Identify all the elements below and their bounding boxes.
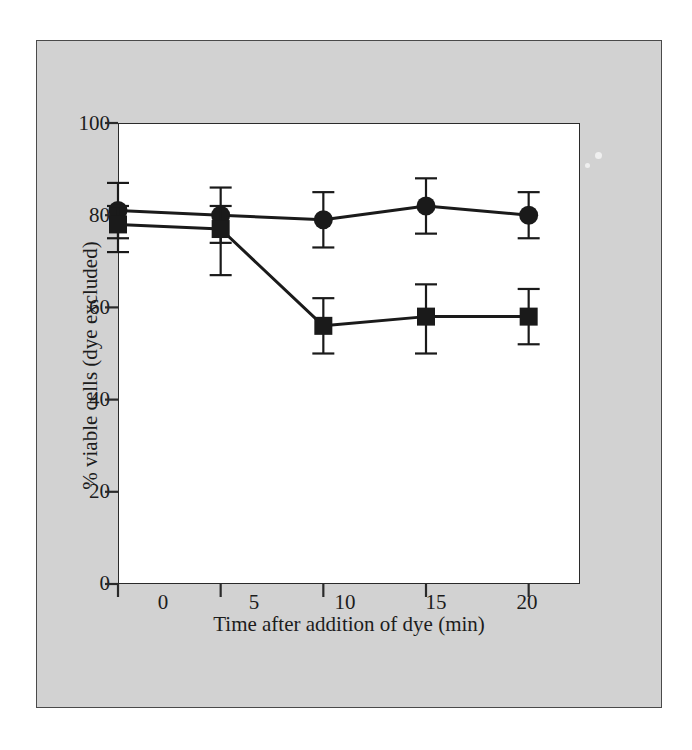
scan-speck <box>585 163 590 168</box>
x-tick-label-0: 0 <box>137 592 189 613</box>
x-tick-label-10: 10 <box>319 592 371 613</box>
x-tick-label-5: 5 <box>228 592 280 613</box>
x-tick-label-15: 15 <box>410 592 462 613</box>
figure-root: 100 80 60 40 20 0 0 5 10 15 20 Time afte… <box>0 0 692 750</box>
y-axis-title: % viable cells (dye excluded) <box>78 135 103 597</box>
y-tick-label-100: 100 <box>46 113 110 134</box>
scan-speck <box>595 152 602 159</box>
plot-area <box>118 123 580 584</box>
x-tick-label-20: 20 <box>501 592 553 613</box>
x-axis-title: Time after addition of dye (min) <box>118 612 580 637</box>
